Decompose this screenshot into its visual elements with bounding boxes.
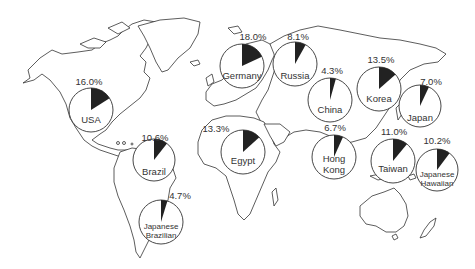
percent-label: 10.2%	[424, 135, 451, 146]
country-label: Russia	[280, 70, 310, 81]
pie-japanese-hawaiian: 10.2%JapaneseHawaiian	[416, 135, 458, 191]
percent-label: 18.0%	[240, 31, 267, 42]
pie-brazil: 10.6%Brazil	[133, 132, 175, 181]
country-label: Korea	[366, 93, 392, 104]
country-label: Japan	[407, 112, 433, 123]
country-label: Brazil	[142, 166, 166, 177]
percent-label: 4.3%	[321, 65, 343, 76]
country-label: China	[318, 104, 344, 115]
country-label: Japanese	[420, 170, 455, 179]
pie-germany: 18.0%Germany	[220, 31, 267, 88]
percent-label: 11.0%	[381, 126, 408, 137]
country-label: Hong	[323, 153, 346, 164]
world-map-figure: 16.0%USA18.0%Germany8.1%Russia4.3%China1…	[0, 0, 475, 269]
percent-label: 8.1%	[287, 31, 309, 42]
percent-label: 6.7%	[324, 122, 346, 133]
country-label: Kong	[323, 164, 345, 175]
country-label: Japanese	[144, 222, 179, 231]
percent-label: 4.7%	[169, 190, 191, 201]
percent-label: 13.5%	[368, 54, 395, 65]
pie-japan: 7.0%Japan	[399, 76, 442, 127]
percent-label: 16.0%	[76, 76, 103, 87]
country-label: Hawaiian	[421, 179, 454, 188]
pie-taiwan: 11.0%Taiwan	[371, 126, 415, 183]
percent-label: 7.0%	[420, 76, 442, 87]
country-label: USA	[81, 114, 101, 125]
country-label: Germany	[222, 70, 261, 81]
country-label: Egypt	[231, 155, 256, 166]
percent-label: 10.6%	[142, 132, 169, 143]
percent-label: 13.3%	[203, 123, 230, 134]
country-label: Taiwan	[378, 163, 408, 174]
country-label: Brazilian	[146, 231, 177, 240]
